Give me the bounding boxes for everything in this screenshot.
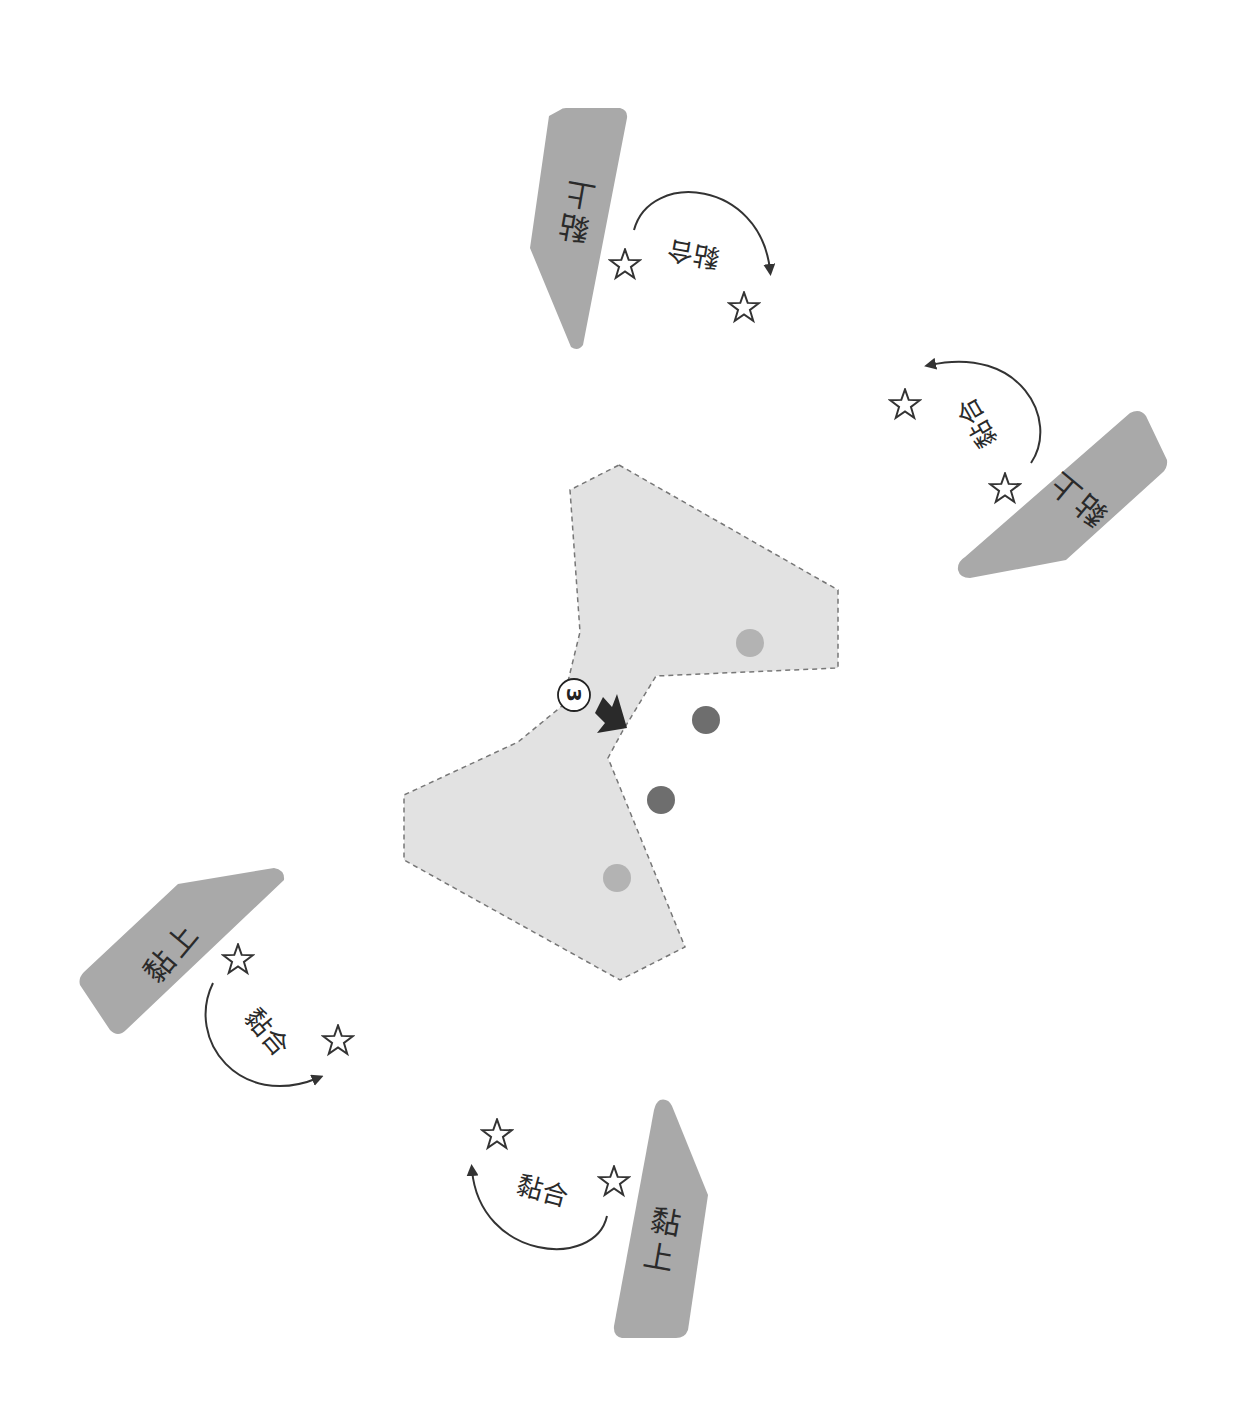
arc-label-top: 黏合 [665,235,721,274]
dot-outside-upper [692,706,720,734]
arc-label-bottom: 黏合 [513,1170,571,1212]
tab-top: 黏 上 黏合 [530,108,770,349]
star-icon [323,1025,353,1053]
arc-label-right: 黏合 [951,392,1003,452]
tab-bottom-text-1: 黏 [647,1202,683,1242]
diagram-canvas: 3 黏 上 黏合 黏 上 黏合 黏 上 黏合 [0,0,1239,1407]
arc-label-bottom-left: 黏合 [239,1003,295,1062]
tab-bottom-left: 黏 上 黏合 [80,868,353,1086]
center-shape: 3 [404,465,838,980]
tab-right: 黏 上 黏合 [890,362,1167,578]
tab-top-text-2: 上 [563,175,599,215]
step-number: 3 [562,688,586,702]
step-badge: 3 [558,679,590,711]
dot-inside-lower [603,864,631,892]
star-icon [610,249,640,277]
star-icon [729,292,759,320]
tab-bottom-text-2: 上 [641,1237,677,1277]
star-icon [990,473,1020,501]
tab-bottom: 黏 上 黏合 [472,1100,708,1338]
dot-outside-lower [647,786,675,814]
dot-inside-upper [736,629,764,657]
star-icon [223,944,253,972]
star-icon [599,1166,629,1194]
star-icon [890,389,920,417]
star-icon [482,1119,512,1147]
